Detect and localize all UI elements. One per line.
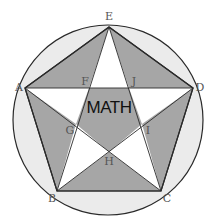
label-i: I bbox=[146, 124, 150, 137]
label-b: B bbox=[48, 192, 56, 205]
label-a: A bbox=[14, 81, 24, 94]
center-label: MATH bbox=[87, 98, 132, 117]
label-d: D bbox=[196, 81, 205, 94]
label-g: G bbox=[66, 124, 75, 137]
label-f: F bbox=[81, 75, 89, 88]
label-j: J bbox=[131, 75, 136, 88]
label-c: C bbox=[163, 192, 171, 205]
pentagram-diagram: MATH E A D B C F J G I H bbox=[0, 0, 214, 220]
label-e: E bbox=[105, 10, 113, 23]
label-h: H bbox=[104, 155, 114, 168]
